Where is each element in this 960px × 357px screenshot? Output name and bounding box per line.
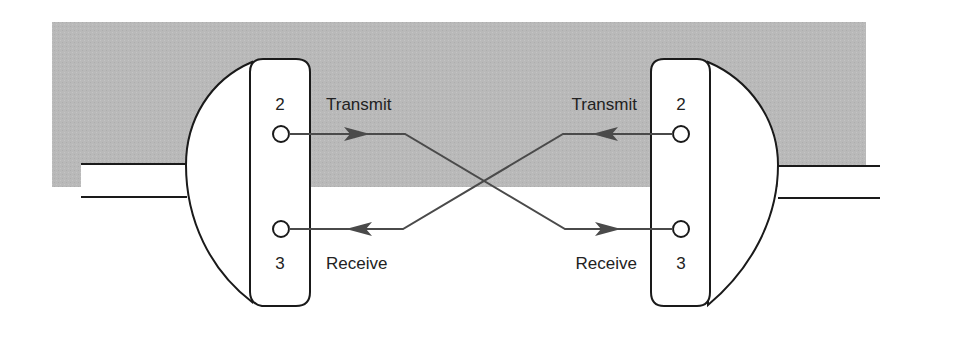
null-modem-diagram: 2 3 2 3 Transmit Receive Transmit Receiv… (0, 0, 960, 357)
left-receive-label: Receive (326, 254, 387, 273)
left-cable (81, 164, 187, 197)
right-pin-2-number: 2 (676, 95, 685, 114)
right-pin-2 (673, 126, 689, 142)
right-transmit-label: Transmit (572, 95, 638, 114)
left-pin-3 (273, 221, 289, 237)
right-receive-label: Receive (576, 254, 637, 273)
left-pin-2-number: 2 (275, 95, 284, 114)
right-pin-3 (673, 221, 689, 237)
left-pin-2 (273, 126, 289, 142)
right-pin-3-number: 3 (676, 254, 685, 273)
right-cable (778, 166, 882, 198)
left-transmit-label: Transmit (326, 95, 392, 114)
left-pin-3-number: 3 (275, 254, 284, 273)
